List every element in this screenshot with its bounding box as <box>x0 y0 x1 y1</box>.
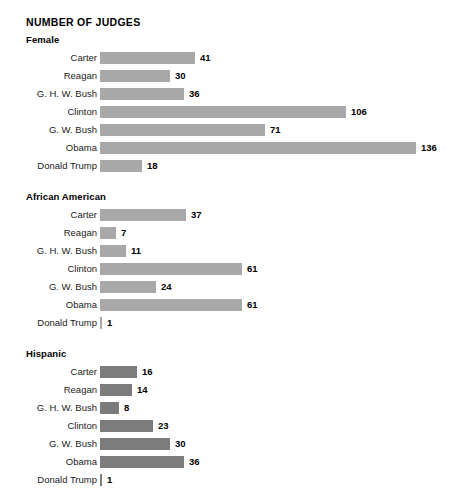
bar-row: G. W. Bush30 <box>0 435 464 453</box>
chart-title: NUMBER OF JUDGES <box>26 16 464 28</box>
bar-area: 24 <box>100 278 464 296</box>
bar-value-label: 61 <box>242 299 258 311</box>
bar-area: 1 <box>100 471 464 489</box>
bar <box>100 245 126 257</box>
bar <box>100 52 195 64</box>
bar-value-label: 8 <box>119 402 129 414</box>
category-label: Obama <box>0 299 100 311</box>
bar-value-label: 14 <box>132 384 148 396</box>
bar-row: G. H. W. Bush8 <box>0 399 464 417</box>
bar <box>100 227 116 239</box>
bar-value-label: 18 <box>142 160 158 172</box>
bar-area: 71 <box>100 121 464 139</box>
category-label: G. H. W. Bush <box>0 245 100 257</box>
bar-area: 61 <box>100 260 464 278</box>
bar <box>100 384 132 396</box>
panel-title: Hispanic <box>26 348 464 359</box>
panel-female: FemaleCarter41Reagan30G. H. W. Bush36Cli… <box>0 34 464 175</box>
bar-value-label: 7 <box>116 227 126 239</box>
panel-title: Female <box>26 34 464 45</box>
bar-row: Obama136 <box>0 139 464 157</box>
bar <box>100 456 184 468</box>
bar-rows: Carter37Reagan7G. H. W. Bush11Clinton61G… <box>0 206 464 332</box>
bar <box>100 402 119 414</box>
bar-row: G. H. W. Bush11 <box>0 242 464 260</box>
bar-area: 7 <box>100 224 464 242</box>
category-label: G. W. Bush <box>0 281 100 293</box>
category-label: Clinton <box>0 420 100 432</box>
bar-area: 30 <box>100 435 464 453</box>
category-label: G. W. Bush <box>0 124 100 136</box>
bar-value-label: 36 <box>184 88 200 100</box>
bar-value-label: 41 <box>195 52 211 64</box>
bar-area: 41 <box>100 49 464 67</box>
category-label: Carter <box>0 209 100 221</box>
bar-row: Donald Trump18 <box>0 157 464 175</box>
bar <box>100 88 184 100</box>
bar-value-label: 30 <box>170 438 186 450</box>
category-label: Carter <box>0 52 100 64</box>
bar-area: 1 <box>100 314 464 332</box>
bar-row: Reagan14 <box>0 381 464 399</box>
category-label: Donald Trump <box>0 160 100 172</box>
bar-row: Reagan7 <box>0 224 464 242</box>
bar <box>100 366 137 378</box>
bar-area: 136 <box>100 139 464 157</box>
category-label: Clinton <box>0 263 100 275</box>
bar-value-label: 30 <box>170 70 186 82</box>
category-label: Reagan <box>0 384 100 396</box>
category-label: Donald Trump <box>0 474 100 486</box>
bar-area: 18 <box>100 157 464 175</box>
bar-row: G. H. W. Bush36 <box>0 85 464 103</box>
bar-value-label: 71 <box>265 124 281 136</box>
bar <box>100 124 265 136</box>
bar <box>100 142 416 154</box>
bar-value-label: 36 <box>184 456 200 468</box>
bar-rows: Carter16Reagan14G. H. W. Bush8Clinton23G… <box>0 363 464 489</box>
panel-title: African American <box>26 191 464 202</box>
bar-value-label: 23 <box>153 420 169 432</box>
bar-area: 36 <box>100 85 464 103</box>
category-label: Obama <box>0 456 100 468</box>
category-label: Reagan <box>0 227 100 239</box>
bar-row: Carter37 <box>0 206 464 224</box>
category-label: Donald Trump <box>0 317 100 329</box>
bar-value-label: 106 <box>346 106 367 118</box>
panel-african-american: African AmericanCarter37Reagan7G. H. W. … <box>0 191 464 332</box>
bar <box>100 106 346 118</box>
category-label: Carter <box>0 366 100 378</box>
category-label: G. H. W. Bush <box>0 88 100 100</box>
bar <box>100 160 142 172</box>
bar <box>100 438 170 450</box>
bar-area: 23 <box>100 417 464 435</box>
bar-value-label: 61 <box>242 263 258 275</box>
bar-area: 11 <box>100 242 464 260</box>
bar-value-label: 1 <box>102 474 112 486</box>
bar-row: Obama61 <box>0 296 464 314</box>
bar-area: 37 <box>100 206 464 224</box>
bar-area: 8 <box>100 399 464 417</box>
bar-area: 106 <box>100 103 464 121</box>
bar <box>100 420 153 432</box>
category-label: Reagan <box>0 70 100 82</box>
bar <box>100 209 186 221</box>
bar-value-label: 1 <box>102 317 112 329</box>
bar-area: 36 <box>100 453 464 471</box>
bar-row: Clinton23 <box>0 417 464 435</box>
panel-container: FemaleCarter41Reagan30G. H. W. Bush36Cli… <box>0 34 464 489</box>
bar-row: Donald Trump1 <box>0 314 464 332</box>
bar-row: Clinton61 <box>0 260 464 278</box>
category-label: G. W. Bush <box>0 438 100 450</box>
category-label: Clinton <box>0 106 100 118</box>
bar <box>100 281 156 293</box>
bar-row: Clinton106 <box>0 103 464 121</box>
bar-row: G. W. Bush71 <box>0 121 464 139</box>
bar-value-label: 24 <box>156 281 172 293</box>
bar <box>100 263 242 275</box>
bar-value-label: 16 <box>137 366 153 378</box>
bar-rows: Carter41Reagan30G. H. W. Bush36Clinton10… <box>0 49 464 175</box>
category-label: G. H. W. Bush <box>0 402 100 414</box>
category-label: Obama <box>0 142 100 154</box>
bar-area: 61 <box>100 296 464 314</box>
